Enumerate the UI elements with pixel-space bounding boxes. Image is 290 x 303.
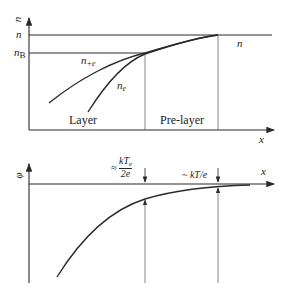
level-n-label: n <box>16 29 22 40</box>
region-layer-label: Layer <box>69 114 97 126</box>
ion-sub: +e <box>87 59 96 68</box>
drop-fraction: kTe 2e <box>119 156 132 179</box>
drop-prelayer-label: ~ kT/e <box>182 170 207 180</box>
drop-prefix: ≈ <box>111 162 117 173</box>
drop-num: kT <box>119 155 129 166</box>
nB-sub: B <box>20 50 26 60</box>
top-plot <box>29 18 274 130</box>
diagram-canvas <box>0 0 290 303</box>
drop-layer-label: ≈ kTe 2e <box>111 156 132 179</box>
ion-density-curve <box>49 35 218 103</box>
level-nB-label: nB <box>14 47 26 60</box>
electron-curve-label: ne <box>117 80 126 93</box>
far-n-label: n <box>237 38 243 49</box>
ion-curve-label: n+e <box>81 55 95 68</box>
drop-den: 2e <box>119 169 132 179</box>
bottom-plot <box>29 164 274 283</box>
bottom-x-axis-label: x <box>261 166 266 177</box>
drop-num-sub: e <box>129 160 132 168</box>
region-prelayer-label: Pre-layer <box>160 114 204 126</box>
electron-density-curve <box>88 35 218 112</box>
bottom-y-axis-label: φ <box>13 172 24 178</box>
potential-curve <box>57 185 250 277</box>
top-x-axis-label: x <box>259 134 264 145</box>
top-y-axis-label: n <box>12 17 23 23</box>
e-sub: e <box>123 84 127 93</box>
